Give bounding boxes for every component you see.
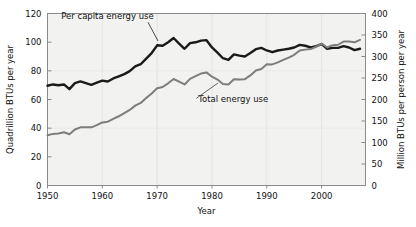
y2-axis-tick-label: 400 [372,9,388,19]
y-axis-tick-label: 0 [36,181,41,191]
y-axis-tick-label: 120 [25,9,41,19]
x-axis-title: Year [197,206,217,216]
y2-axis-title: Million BTUs per person per year [396,30,406,169]
y-axis-tick-label: 20 [31,152,42,162]
x-axis-tick-label: 1970 [146,191,168,201]
y2-axis-tick-label: 300 [372,52,388,62]
x-axis-tick-label: 1960 [92,191,114,201]
annotation-total-label: Total energy use [197,94,268,104]
y-axis-tick-label: 40 [31,123,42,133]
y-axis-title: Quadrillion BTUs per year [5,44,15,154]
y2-axis-tick-label: 250 [372,73,388,83]
y2-axis-tick-label: 350 [372,30,388,40]
energy-use-chart-figure: 0204060801001200501001502002503003504001… [0,0,416,227]
y2-axis-tick-label: 100 [372,138,388,148]
x-axis-tick-label: 1990 [256,191,278,201]
y2-axis-tick-label: 150 [372,116,388,126]
y2-axis-tick-label: 200 [372,95,388,105]
y2-axis-tick-label: 0 [372,181,377,191]
y-axis-tick-label: 60 [31,95,42,105]
annotation-per-capita-label: Per capita energy use [61,11,154,21]
x-axis-tick-label: 1980 [201,191,223,201]
x-axis-tick-label: 1950 [37,191,59,201]
y2-axis-tick-label: 50 [372,159,383,169]
x-axis-tick-label: 2000 [311,191,333,201]
y-axis-tick-label: 100 [25,37,41,47]
y-axis-tick-label: 80 [31,66,42,76]
chart-canvas: 0204060801001200501001502002503003504001… [0,0,416,227]
